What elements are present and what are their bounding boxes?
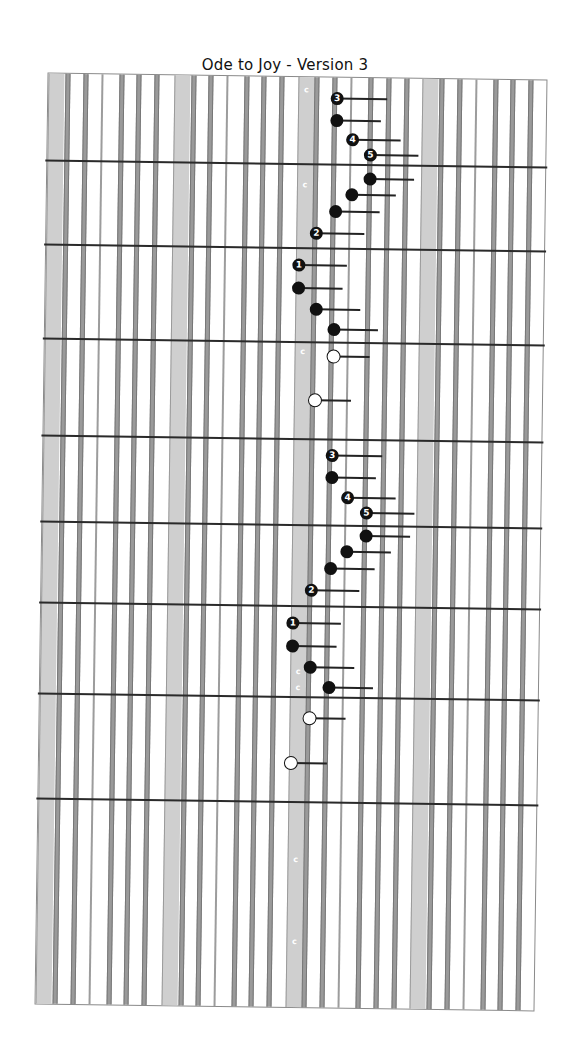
quarter-note: 1 <box>286 616 299 629</box>
quarter-note: 5 <box>360 506 373 519</box>
c-marker: c <box>300 349 306 355</box>
note-duration-line <box>353 139 401 141</box>
quarter-note <box>292 281 305 294</box>
finger-number: 1 <box>296 261 302 270</box>
note-duration-line <box>347 551 391 553</box>
string-line <box>373 78 391 1008</box>
quarter-note <box>363 172 376 185</box>
tablature-sheet: ccccccc3452134521 <box>35 73 548 1012</box>
note-duration-line <box>370 178 414 180</box>
quarter-note <box>329 205 342 218</box>
quarter-note <box>345 188 358 201</box>
finger-number: 5 <box>367 151 373 160</box>
quarter-note: 3 <box>331 92 344 105</box>
string-line <box>444 79 462 1009</box>
note-duration-line <box>329 687 373 689</box>
string-line <box>89 74 103 1004</box>
string-line <box>142 75 160 1005</box>
quarter-note <box>340 545 353 558</box>
string-line <box>462 80 476 1010</box>
note-duration-line <box>332 477 376 479</box>
half-note <box>302 711 316 725</box>
string-line <box>267 77 285 1007</box>
string-line <box>497 80 515 1010</box>
note-duration-line <box>316 309 360 311</box>
finger-number: 2 <box>313 229 319 238</box>
note-duration-line <box>352 194 396 196</box>
string-line <box>196 76 214 1006</box>
half-note <box>308 393 322 407</box>
page-title: Ode to Joy - Version 3 <box>0 56 570 74</box>
note-duration-line <box>316 233 364 235</box>
quarter-note <box>325 471 338 484</box>
finger-number: 3 <box>329 451 335 460</box>
quarter-note <box>360 529 373 542</box>
quarter-note <box>310 303 323 316</box>
c-marker: c <box>302 182 308 188</box>
finger-number: 3 <box>334 94 340 103</box>
c-marker: c <box>293 857 299 863</box>
note-duration-line <box>331 568 375 570</box>
string-line <box>214 76 228 1006</box>
note-duration-line <box>337 120 381 122</box>
finger-number: 4 <box>349 135 355 144</box>
string-line <box>515 80 533 1010</box>
string-line <box>391 79 409 1009</box>
finger-number: 1 <box>290 618 296 627</box>
finger-number: 5 <box>363 509 369 518</box>
note-duration-line <box>336 211 380 213</box>
string-line <box>356 78 374 1008</box>
string-line <box>480 80 498 1010</box>
note-duration-line <box>310 667 354 669</box>
string-line <box>249 77 267 1007</box>
note-duration-line <box>337 98 387 100</box>
note-duration-line <box>366 512 414 514</box>
half-note <box>326 349 340 363</box>
half-note <box>284 756 298 770</box>
quarter-note <box>324 562 337 575</box>
finger-number: 2 <box>308 586 314 595</box>
c-marker: c <box>295 669 301 675</box>
string-line <box>71 74 89 1004</box>
finger-number: 4 <box>344 493 350 502</box>
quarter-note <box>330 114 343 127</box>
c-marker: c <box>291 939 297 945</box>
quarter-note: 1 <box>292 258 305 271</box>
quarter-note <box>304 661 317 674</box>
quarter-note: 3 <box>326 449 339 462</box>
quarter-note: 2 <box>305 584 318 597</box>
quarter-note: 4 <box>346 133 359 146</box>
note-duration-line <box>366 535 410 537</box>
string-line <box>107 75 125 1005</box>
quarter-note: 2 <box>310 227 323 240</box>
string-line <box>338 78 352 1008</box>
c-marker: c <box>295 685 301 691</box>
string-line <box>232 76 250 1006</box>
note-duration-line <box>370 154 418 156</box>
c-marker: c <box>303 87 309 93</box>
quarter-note <box>322 681 335 694</box>
quarter-note: 4 <box>341 491 354 504</box>
note-duration-line <box>311 590 359 592</box>
string-line <box>124 75 142 1005</box>
quarter-note <box>327 323 340 336</box>
quarter-note: 5 <box>364 148 377 161</box>
note-duration-line <box>348 497 396 499</box>
note-duration-line <box>334 329 378 331</box>
note-duration-line <box>332 455 382 457</box>
quarter-note <box>286 639 299 652</box>
